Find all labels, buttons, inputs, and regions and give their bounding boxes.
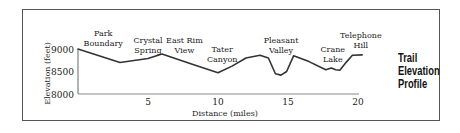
x-tick-label: 10 (212, 97, 224, 107)
y-axis-label: Elevation (feet) (43, 42, 52, 105)
x-axis-label: Distance (miles) (192, 109, 258, 118)
landmark-label: Crystal (133, 36, 163, 45)
x-tick-label: 20 (352, 97, 364, 107)
chart-title-line: Profile (398, 78, 440, 91)
landmark-label: Telephone (340, 31, 382, 40)
x-tick-label: 15 (282, 97, 294, 107)
elevation-chart: 8000850090005101520Distance (miles)Eleva… (0, 0, 460, 133)
landmark-label: Lake (323, 55, 343, 64)
landmark-label: Crane (320, 45, 345, 54)
landmark-label: Pleasant (264, 36, 299, 45)
landmark-label: Valley (268, 46, 294, 55)
landmark-label: Hill (353, 41, 368, 50)
landmark-label: Boundary (84, 39, 124, 48)
landmark-label: Tater (212, 45, 233, 54)
landmark-label: Canyon (207, 55, 238, 64)
y-tick-label: 8000 (51, 90, 74, 100)
chart-title: Trail Elevation Profile (398, 52, 440, 91)
y-tick-label: 9000 (51, 45, 74, 55)
landmark-label: East Rim (166, 36, 203, 45)
landmark-label: Park (94, 29, 113, 38)
x-tick-label: 5 (145, 97, 151, 107)
landmark-label: View (174, 46, 195, 55)
y-tick-label: 8500 (51, 67, 74, 77)
landmark-label: Spring (134, 46, 161, 55)
